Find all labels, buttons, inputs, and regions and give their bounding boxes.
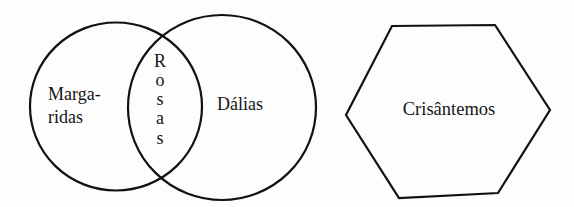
label-crisantemos: Crisântemos — [403, 99, 496, 119]
venn-diagram-figure: Marga- ridas R o s a s Dálias Crisântemo… — [0, 0, 574, 207]
label-rosas-letter: s — [156, 89, 163, 109]
label-margaridas-line1: Marga- — [48, 84, 101, 104]
label-margaridas-line2: ridas — [48, 107, 83, 127]
label-rosas-letter: s — [156, 128, 163, 148]
label-rosas-letter: R — [154, 51, 166, 71]
label-dalias: Dálias — [217, 94, 263, 114]
diagram-canvas: Marga- ridas R o s a s Dálias Crisântemo… — [0, 0, 574, 207]
label-rosas-letter: a — [156, 108, 164, 128]
label-rosas-vertical: R o s a s — [154, 51, 166, 148]
label-rosas-letter: o — [156, 70, 165, 90]
